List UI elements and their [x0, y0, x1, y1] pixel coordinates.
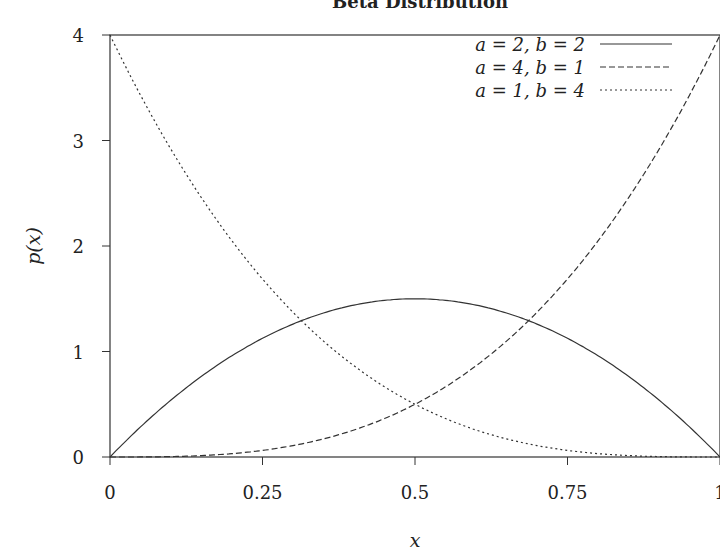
plot-frame — [110, 35, 720, 457]
y-axis-label: p(x) — [22, 227, 44, 265]
beta-distribution-chart: 00.250.50.75101234xp(x)a = 2, b = 2a = 4… — [0, 0, 720, 548]
x-tick-label: 0.25 — [242, 482, 282, 503]
x-tick-label: 0.75 — [547, 482, 587, 503]
x-axis-label: x — [410, 529, 421, 548]
y-tick-label: 1 — [73, 342, 84, 363]
y-tick-label: 0 — [73, 447, 84, 468]
legend-label: a = 4, b = 1 — [475, 57, 585, 78]
x-tick-label: 0.5 — [401, 482, 430, 503]
legend-label: a = 1, b = 4 — [475, 80, 585, 101]
x-tick-label: 0 — [104, 482, 115, 503]
series-line — [110, 299, 720, 457]
legend-label: a = 2, b = 2 — [475, 34, 585, 55]
y-tick-label: 3 — [73, 131, 84, 152]
x-tick-label: 1 — [714, 482, 720, 503]
y-tick-label: 4 — [73, 25, 84, 46]
y-tick-label: 2 — [73, 236, 84, 257]
series-line — [110, 35, 720, 457]
series-line — [110, 35, 720, 457]
